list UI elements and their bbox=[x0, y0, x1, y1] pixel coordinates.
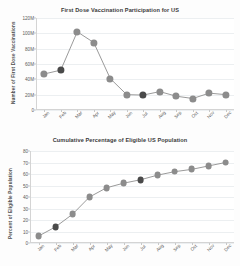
y-tick-label: 0 bbox=[25, 241, 28, 246]
data-point bbox=[86, 194, 93, 201]
y-axis-label-first-dose: Number of First Dose Vaccinations bbox=[11, 21, 16, 104]
data-point bbox=[120, 180, 127, 187]
chart-cumulative-percent: Cumulative Percentage of Eligible US Pop… bbox=[0, 131, 240, 266]
x-tick-label: Oct bbox=[189, 243, 198, 252]
gridline bbox=[36, 110, 234, 111]
x-tick-label: Jul bbox=[141, 111, 149, 119]
x-tick-label: Dec bbox=[223, 110, 232, 119]
x-tick-label: Apr bbox=[91, 110, 100, 119]
plot-area-cumulative-percent: 01020304050607080JanFebMarAprMayJunJulAu… bbox=[30, 151, 234, 243]
data-point bbox=[69, 211, 76, 218]
series-polyline bbox=[30, 151, 234, 243]
x-tick-label: Jun bbox=[121, 243, 130, 252]
data-point bbox=[52, 223, 59, 230]
x-tick-label: Apr bbox=[87, 243, 96, 252]
x-tick-label: Oct bbox=[190, 110, 199, 119]
x-tick-label: Nov bbox=[206, 243, 215, 252]
x-tick-label: Sep bbox=[173, 110, 182, 119]
data-point bbox=[205, 163, 212, 170]
x-tick-label: Aug bbox=[155, 243, 164, 252]
y-tick-label: 10 bbox=[23, 229, 28, 234]
x-tick-label: Feb bbox=[58, 110, 67, 119]
y-tick-label: 40M bbox=[25, 77, 34, 82]
chart-title-cumulative-percent: Cumulative Percentage of Eligible US Pop… bbox=[0, 136, 240, 144]
x-tick-label: Jul bbox=[138, 244, 146, 252]
x-tick-label: May bbox=[103, 243, 113, 253]
data-point bbox=[171, 168, 178, 175]
data-point bbox=[103, 184, 110, 191]
y-tick-label: 0 bbox=[31, 108, 34, 113]
x-tick-label: Mar bbox=[74, 110, 83, 119]
x-tick-label: Mar bbox=[70, 243, 79, 252]
y-tick-label: 100M bbox=[23, 31, 35, 36]
y-tick-label: 70 bbox=[23, 160, 28, 165]
data-point bbox=[137, 176, 144, 183]
y-tick-label: 80M bbox=[25, 46, 34, 51]
data-point bbox=[222, 159, 229, 166]
x-tick-label: Jan bbox=[42, 110, 51, 119]
data-point bbox=[154, 172, 161, 179]
x-tick-label: Nov bbox=[206, 110, 215, 119]
x-tick-label: Jan bbox=[36, 243, 45, 252]
x-tick-label: Dec bbox=[223, 243, 232, 252]
x-tick-label: Jun bbox=[124, 110, 133, 119]
data-point bbox=[35, 233, 42, 240]
y-tick-label: 60 bbox=[23, 172, 28, 177]
screenshot-root: First Dose Vaccination Participation for… bbox=[0, 0, 240, 266]
x-tick-label: Sep bbox=[172, 243, 181, 252]
x-tick-label: Feb bbox=[53, 243, 62, 252]
chart-first-dose: First Dose Vaccination Participation for… bbox=[0, 0, 240, 133]
plot-area-first-dose: 020M40M60M80M100M120MJanFebMarAprMayJunJ… bbox=[36, 18, 234, 110]
y-axis-label-cumulative-percent: Percent of Eligible Population bbox=[8, 168, 13, 239]
y-tick-label: 40 bbox=[23, 195, 28, 200]
y-tick-label: 20M bbox=[25, 92, 34, 97]
gridline bbox=[30, 243, 234, 244]
y-tick-label: 120M bbox=[23, 16, 35, 21]
y-tick-label: 80 bbox=[23, 149, 28, 154]
y-tick-label: 50 bbox=[23, 183, 28, 188]
y-tick-label: 30 bbox=[23, 206, 28, 211]
data-point bbox=[188, 166, 195, 173]
y-tick-label: 60M bbox=[25, 62, 34, 67]
series-polyline bbox=[36, 18, 234, 110]
x-tick-label: May bbox=[107, 110, 117, 120]
x-tick-label: Aug bbox=[157, 110, 166, 119]
y-tick-label: 20 bbox=[23, 218, 28, 223]
chart-title-first-dose: First Dose Vaccination Participation for… bbox=[0, 6, 240, 14]
